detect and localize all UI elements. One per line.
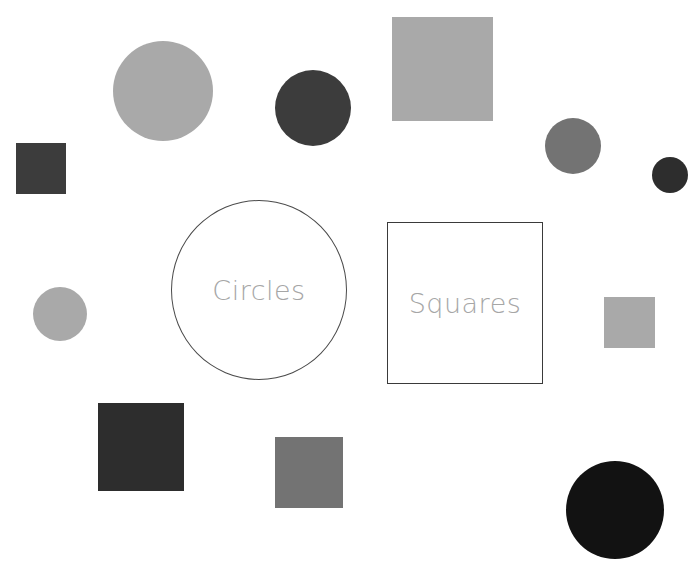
dark-circle-edge[interactable] bbox=[652, 157, 688, 193]
dark-square-bottom[interactable] bbox=[98, 403, 184, 491]
dark-circle-top[interactable] bbox=[275, 70, 351, 146]
light-square-top[interactable] bbox=[392, 17, 493, 121]
squares-label: Squares bbox=[409, 288, 522, 319]
dark-square-left[interactable] bbox=[16, 143, 66, 194]
squares-sort-target[interactable]: Squares bbox=[387, 222, 543, 384]
circles-sort-target[interactable]: Circles bbox=[171, 200, 347, 380]
light-circle-left[interactable] bbox=[33, 287, 87, 341]
large-light-circle[interactable] bbox=[113, 41, 213, 141]
circles-label: Circles bbox=[212, 275, 305, 306]
black-circle-bottom[interactable] bbox=[566, 461, 664, 559]
light-square-right[interactable] bbox=[604, 297, 655, 348]
medium-circle-right[interactable] bbox=[545, 118, 601, 174]
medium-square-bottom[interactable] bbox=[275, 437, 343, 508]
